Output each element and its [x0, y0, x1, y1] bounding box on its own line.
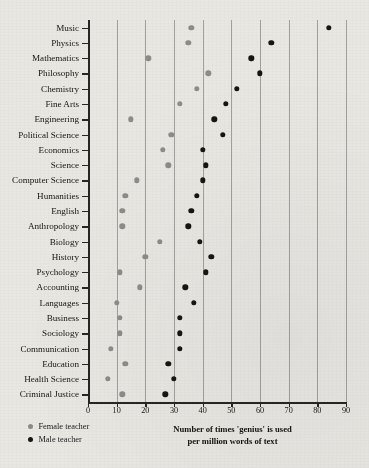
y-axis-label-education: Education — [42, 359, 79, 369]
data-point-female-education — [123, 361, 128, 366]
gridline-10 — [117, 20, 118, 402]
gridline-90 — [346, 20, 347, 402]
y-tick-22 — [82, 364, 88, 365]
y-axis-label-biology: Biology — [50, 237, 79, 247]
y-axis-label-philosophy: Philosophy — [38, 68, 79, 78]
y-axis-label-english: English — [51, 206, 79, 216]
y-tick-2 — [82, 58, 88, 59]
y-tick-8 — [82, 150, 88, 151]
x-tick-label-90: 90 — [331, 406, 361, 415]
legend-label-male: Male teacher — [38, 433, 81, 446]
y-axis-label-chemistry: Chemistry — [41, 84, 79, 94]
data-point-female-fine-arts — [177, 101, 182, 106]
y-tick-20 — [82, 333, 88, 334]
y-axis-label-sociology: Sociology — [42, 328, 79, 338]
y-tick-16 — [82, 272, 88, 273]
y-tick-15 — [82, 257, 88, 258]
y-axis-label-languages: Languages — [40, 298, 79, 308]
data-point-female-business — [117, 315, 122, 320]
data-point-male-psychology — [203, 269, 208, 274]
x-axis-title: Number of times 'genius' is used per mil… — [120, 424, 345, 447]
x-tick-label-60: 60 — [245, 406, 275, 415]
y-axis-label-psychology: Psychology — [37, 267, 79, 277]
data-point-male-philosophy — [257, 71, 262, 76]
data-point-male-fine-arts — [223, 101, 228, 106]
y-tick-11 — [82, 196, 88, 197]
gridline-40 — [203, 20, 204, 402]
y-axis-label-fine-arts: Fine Arts — [45, 99, 79, 109]
y-tick-21 — [82, 349, 88, 350]
y-axis-label-communication: Communication — [20, 344, 79, 354]
data-point-male-communication — [177, 346, 182, 351]
data-point-female-physics — [186, 40, 191, 45]
x-tick-label-80: 80 — [302, 406, 332, 415]
y-axis-label-music: Music — [56, 23, 79, 33]
data-point-female-languages — [114, 300, 119, 305]
gridline-80 — [317, 20, 318, 402]
data-point-female-psychology — [117, 269, 122, 274]
x-axis-title-line1: Number of times 'genius' is used — [120, 424, 345, 436]
data-point-male-business — [177, 315, 182, 320]
y-axis-label-history: History — [52, 252, 79, 262]
gridline-50 — [231, 20, 232, 402]
y-axis-category-labels: MusicPhysicsMathematicsPhilosophyChemist… — [0, 0, 79, 468]
data-point-female-anthropology — [120, 224, 125, 229]
y-tick-24 — [82, 394, 88, 395]
y-axis-label-physics: Physics — [51, 38, 79, 48]
data-point-male-music — [326, 25, 331, 30]
data-point-female-chemistry — [194, 86, 199, 91]
y-tick-18 — [82, 303, 88, 304]
x-tick-label-40: 40 — [188, 406, 218, 415]
data-point-male-chemistry — [234, 86, 239, 91]
data-point-female-computer-science — [134, 178, 139, 183]
y-axis-label-business: Business — [47, 313, 79, 323]
y-axis-label-criminal-justice: Criminal Justice — [20, 389, 79, 399]
x-axis-line — [88, 402, 346, 404]
data-point-male-criminal-justice — [163, 392, 168, 397]
data-point-male-education — [166, 361, 171, 366]
y-tick-7 — [82, 135, 88, 136]
y-tick-5 — [82, 104, 88, 105]
genius-usage-dot-plot: MusicPhysicsMathematicsPhilosophyChemist… — [0, 0, 369, 468]
data-point-male-mathematics — [249, 55, 254, 60]
gridline-60 — [260, 20, 261, 402]
data-point-male-engineering — [211, 117, 216, 122]
y-axis-label-accounting: Accounting — [37, 282, 79, 292]
x-tick-label-0: 0 — [73, 406, 103, 415]
x-tick-label-70: 70 — [274, 406, 304, 415]
data-point-female-biology — [157, 239, 162, 244]
y-axis-label-humanities: Humanities — [37, 191, 79, 201]
data-point-male-sociology — [177, 331, 182, 336]
x-axis-title-line2: per million words of text — [120, 436, 345, 448]
y-tick-14 — [82, 242, 88, 243]
gridline-30 — [174, 20, 175, 402]
y-tick-1 — [82, 43, 88, 44]
data-point-female-mathematics — [145, 55, 150, 60]
x-tick-label-10: 10 — [102, 406, 132, 415]
data-point-female-criminal-justice — [120, 392, 125, 397]
y-tick-9 — [82, 165, 88, 166]
y-axis-label-science: Science — [51, 160, 79, 170]
data-point-female-accounting — [137, 285, 142, 290]
y-tick-17 — [82, 287, 88, 288]
data-point-female-sociology — [117, 331, 122, 336]
data-point-female-economics — [160, 147, 165, 152]
data-point-male-history — [209, 254, 214, 259]
data-point-male-science — [203, 162, 208, 167]
data-point-female-music — [188, 25, 193, 30]
y-tick-12 — [82, 211, 88, 212]
gridline-20 — [145, 20, 146, 402]
data-point-female-health-science — [105, 376, 110, 381]
data-point-female-science — [166, 162, 171, 167]
legend-dot-male-icon — [28, 437, 33, 442]
data-point-male-political-science — [220, 132, 225, 137]
y-tick-13 — [82, 226, 88, 227]
gridline-70 — [289, 20, 290, 402]
data-point-male-health-science — [171, 376, 176, 381]
y-axis-label-computer-science: Computer Science — [12, 175, 79, 185]
data-point-male-languages — [191, 300, 196, 305]
data-point-male-anthropology — [186, 224, 191, 229]
legend: Female teacher Male teacher — [28, 420, 89, 446]
y-tick-6 — [82, 119, 88, 120]
y-axis-label-health-science: Health Science — [24, 374, 79, 384]
